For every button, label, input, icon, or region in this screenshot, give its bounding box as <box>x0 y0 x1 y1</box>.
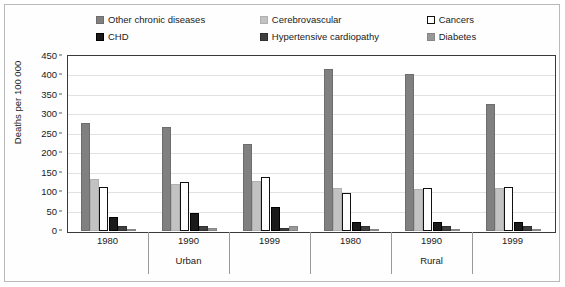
bar-group <box>473 56 554 231</box>
bar[interactable] <box>486 104 495 231</box>
legend-swatch-diabetes <box>427 33 435 41</box>
bar[interactable] <box>180 182 189 231</box>
legend-swatch-other-chronic-diseases <box>96 16 104 24</box>
x-axis: 198019901999198019901999UrbanRural <box>67 232 554 280</box>
x-axis-year-label: 1999 <box>259 235 280 246</box>
y-axis-tick-label: 100 <box>41 186 57 197</box>
bar[interactable] <box>361 226 370 231</box>
chart-legend: Other chronic diseases Cerebrovascular C… <box>96 12 516 46</box>
y-axis-tick-mark <box>59 132 62 133</box>
bar[interactable] <box>370 229 379 231</box>
bar[interactable] <box>280 228 289 232</box>
y-axis-tick-label: 50 <box>46 205 57 216</box>
legend-swatch-cerebrovascular <box>260 16 268 24</box>
bar[interactable] <box>433 222 442 231</box>
y-axis-tick-label: 0 <box>52 225 57 236</box>
bars-layer <box>68 56 554 231</box>
bar[interactable] <box>208 228 217 231</box>
y-axis-tick-mark <box>59 210 62 211</box>
legend-item-cancers[interactable]: Cancers <box>427 12 516 27</box>
legend-row-bottom: CHD Hypertensive cardiopathy Diabetes <box>96 29 516 44</box>
x-axis-separator <box>391 232 392 274</box>
bar[interactable] <box>127 229 136 231</box>
x-axis-separator <box>472 232 473 274</box>
legend-label-cerebrovascular: Cerebrovascular <box>272 14 342 25</box>
bar[interactable] <box>352 222 361 231</box>
y-axis-tick-mark <box>59 55 62 56</box>
legend-item-diabetes[interactable]: Diabetes <box>427 29 516 44</box>
y-axis-tick-mark <box>59 191 62 192</box>
y-axis-tick-mark <box>59 152 62 153</box>
legend-label-cancers: Cancers <box>439 14 474 25</box>
bar[interactable] <box>451 229 460 231</box>
x-axis-separator <box>148 232 149 274</box>
bar[interactable] <box>252 181 261 231</box>
legend-label-hypertensive-cardiopathy: Hypertensive cardiopathy <box>272 31 379 42</box>
y-axis-tick-label: 200 <box>41 147 57 158</box>
legend-label-other-chronic-diseases: Other chronic diseases <box>108 14 205 25</box>
x-axis-year-label: 1980 <box>97 235 118 246</box>
y-axis-tick-label: 150 <box>41 166 57 177</box>
x-axis-region-label: Urban <box>176 255 202 266</box>
bar[interactable] <box>324 69 333 231</box>
bar[interactable] <box>171 184 180 231</box>
bar-group <box>149 56 230 231</box>
bar[interactable] <box>271 207 280 232</box>
bar[interactable] <box>289 226 298 231</box>
legend-item-other-chronic-diseases[interactable]: Other chronic diseases <box>96 12 260 27</box>
legend-item-cerebrovascular[interactable]: Cerebrovascular <box>260 12 427 27</box>
x-axis-separator <box>310 232 311 274</box>
bar[interactable] <box>405 74 414 231</box>
bar[interactable] <box>495 188 504 231</box>
bar[interactable] <box>504 187 513 231</box>
y-axis-tick-labels: 050100150200250300350400450 <box>24 55 62 231</box>
y-axis-tick-mark <box>59 171 62 172</box>
bar-group <box>68 56 149 231</box>
bar[interactable] <box>442 226 451 231</box>
y-axis-tick-label: 450 <box>41 50 57 61</box>
bar[interactable] <box>243 144 252 232</box>
bar[interactable] <box>118 226 127 231</box>
bar[interactable] <box>199 226 208 231</box>
legend-swatch-hypertensive-cardiopathy <box>260 33 268 41</box>
bar[interactable] <box>99 187 108 231</box>
bar[interactable] <box>261 177 270 231</box>
bar[interactable] <box>414 189 423 231</box>
bar-group <box>311 56 392 231</box>
bar[interactable] <box>423 188 432 231</box>
legend-item-hypertensive-cardiopathy[interactable]: Hypertensive cardiopathy <box>260 29 427 44</box>
legend-swatch-cancers <box>427 16 435 24</box>
y-axis-tick-label: 250 <box>41 127 57 138</box>
y-axis-tick-mark <box>59 93 62 94</box>
legend-label-chd: CHD <box>108 31 129 42</box>
legend-item-chd[interactable]: CHD <box>96 29 260 44</box>
bar[interactable] <box>523 226 532 231</box>
chart-figure: Other chronic diseases Cerebrovascular C… <box>0 0 565 287</box>
y-axis-tick-label: 300 <box>41 108 57 119</box>
bar-group <box>230 56 311 231</box>
x-axis-year-label: 1980 <box>340 235 361 246</box>
bar[interactable] <box>190 213 199 231</box>
x-axis-region-label: Rural <box>420 255 443 266</box>
bar[interactable] <box>81 123 90 231</box>
bar[interactable] <box>532 229 541 231</box>
x-axis-separator <box>229 232 230 274</box>
x-axis-year-label: 1990 <box>421 235 442 246</box>
bar[interactable] <box>514 222 523 231</box>
y-axis-tick-mark <box>59 230 62 231</box>
bar[interactable] <box>109 217 118 231</box>
bar[interactable] <box>90 179 99 231</box>
y-axis-tick-label: 400 <box>41 69 57 80</box>
legend-label-diabetes: Diabetes <box>439 31 477 42</box>
y-axis-title: Deaths per 100 000 <box>12 38 23 168</box>
legend-swatch-chd <box>96 33 104 41</box>
x-axis-year-label: 1990 <box>178 235 199 246</box>
bar[interactable] <box>342 193 351 231</box>
bar[interactable] <box>162 127 171 231</box>
bar[interactable] <box>333 188 342 231</box>
y-axis-tick-mark <box>59 113 62 114</box>
legend-row-top: Other chronic diseases Cerebrovascular C… <box>96 12 516 27</box>
y-axis-tick-mark <box>59 74 62 75</box>
bar-group <box>392 56 473 231</box>
y-axis-tick-label: 350 <box>41 88 57 99</box>
